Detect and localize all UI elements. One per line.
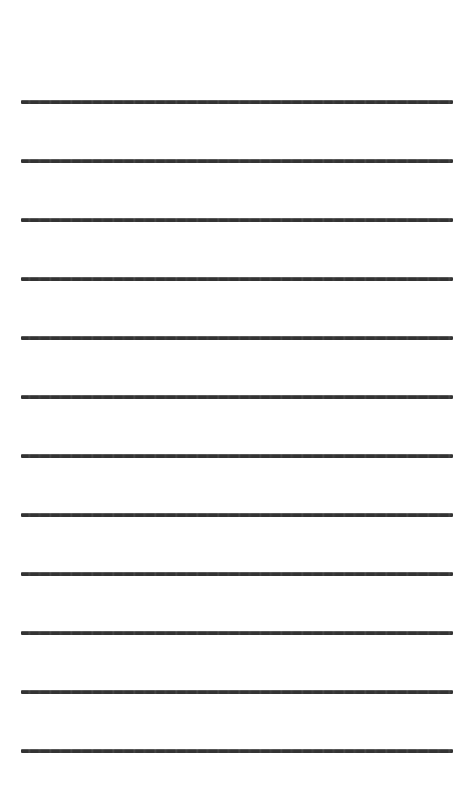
rule-line-12 bbox=[21, 749, 453, 753]
ruled-paper-page bbox=[0, 0, 474, 794]
rule-line-2 bbox=[21, 159, 453, 163]
rule-line-8 bbox=[21, 513, 453, 517]
rule-line-11 bbox=[21, 690, 453, 694]
rule-line-6 bbox=[21, 395, 453, 399]
rule-line-4 bbox=[21, 277, 453, 281]
rule-line-1 bbox=[21, 100, 453, 104]
rule-line-7 bbox=[21, 454, 453, 458]
rule-line-5 bbox=[21, 336, 453, 340]
rule-line-3 bbox=[21, 218, 453, 222]
rule-line-10 bbox=[21, 631, 453, 635]
rule-line-9 bbox=[21, 572, 453, 576]
